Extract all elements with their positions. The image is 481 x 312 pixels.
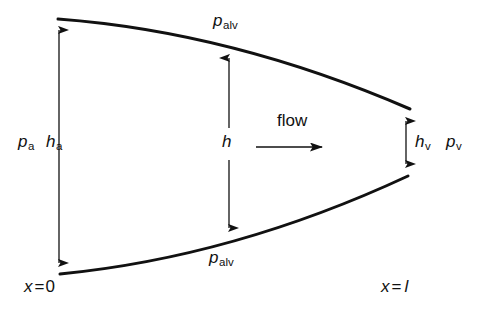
upper-vessel-wall (58, 19, 410, 109)
p-a-subscript: a (28, 140, 35, 152)
x-start-variable: x (24, 277, 33, 296)
x-end-operator: = (390, 277, 403, 296)
h-a-subscript: a (56, 140, 63, 152)
p-alv-top-symbol: p (213, 11, 223, 30)
label-x-start: x=0 (24, 278, 55, 295)
vessel-flow-diagram: palv palv pa ha h flow hv pv x=0 x=l (0, 0, 481, 312)
label-p-venous: pv (446, 133, 462, 152)
p-alv-bottom-subscript: alv (219, 256, 234, 268)
x-end-variable: x (381, 277, 390, 296)
label-flow: flow (277, 112, 307, 129)
p-v-subscript: v (456, 140, 462, 152)
h-v-subscript: v (425, 140, 431, 152)
label-p-alveolar-top: palv (213, 12, 238, 31)
label-p-arterial: pa (18, 133, 34, 152)
diagram-canvas (0, 0, 481, 312)
x-start-operator: = (33, 277, 46, 296)
h-v-symbol: h (415, 132, 425, 151)
p-alv-bottom-symbol: p (209, 248, 219, 267)
h-center-symbol: h (222, 132, 232, 151)
label-p-alveolar-bottom: palv (209, 249, 234, 268)
x-start-value: 0 (45, 277, 54, 296)
label-h-venous: hv (415, 133, 431, 152)
lower-vessel-wall (60, 176, 408, 274)
h-a-symbol: h (46, 132, 56, 151)
p-v-symbol: p (446, 132, 456, 151)
label-x-end: x=l (381, 278, 408, 295)
p-alv-top-subscript: alv (223, 19, 238, 31)
p-a-symbol: p (18, 132, 28, 151)
x-end-value: l (402, 277, 408, 296)
label-h-arterial: ha (46, 133, 62, 152)
label-h-center: h (222, 133, 232, 152)
